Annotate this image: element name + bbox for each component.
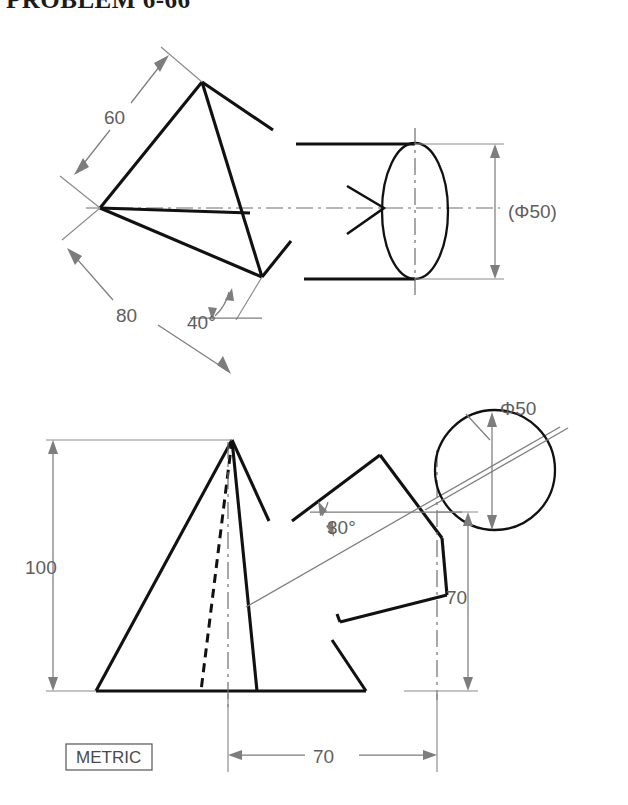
dimension-dia50-arrowhead-top [487, 412, 497, 427]
front-view-block-notch-edge [337, 614, 340, 622]
front-view: Φ50 100 30° [25, 398, 568, 772]
dimension-80-extension-upper [62, 208, 100, 240]
front-view-hidden-edge [201, 440, 232, 691]
front-view-left-slant-edge [96, 440, 232, 691]
dimension-70h-label: 70 [313, 746, 334, 767]
drawing-page: PROBLEM 6-66 [0, 0, 628, 805]
dimension-70h-arrowhead-right [423, 750, 437, 760]
dimension-100-arrowhead-top [48, 440, 58, 454]
dimension-100-arrowhead-bottom [48, 677, 58, 691]
front-view-block-bottom-edge [340, 595, 447, 622]
dimension-40-arrowhead-upper [225, 288, 234, 301]
dimension-60-label: 60 [104, 107, 125, 128]
dimension-60-arrowhead-upper [154, 55, 169, 72]
dimension-dia50ref-arrowhead-bottom [490, 265, 500, 279]
technical-drawing-canvas: 60 80 40° [0, 0, 628, 805]
top-view-edge-upper-right-flap [202, 82, 273, 130]
metric-note: METRIC [66, 744, 152, 770]
dimension-diameter-50: Φ50 [466, 398, 536, 530]
front-view-inclined-axis [246, 427, 560, 607]
dimension-80-label: 80 [116, 305, 137, 326]
front-view-right-slant-edge [232, 440, 257, 691]
dimension-dia50ref-label: (Φ50) [508, 201, 557, 222]
dimension-70h-arrowhead-left [228, 750, 242, 760]
dimension-30-label: 30° [327, 517, 356, 538]
top-view-edge-upper-left [100, 82, 202, 208]
view-direction-arrow-icon [347, 186, 384, 234]
dimension-80-arrowhead-lower [217, 356, 231, 374]
front-view-circle-axis-line [425, 428, 568, 510]
top-view-edge-lower-right-diagonal [100, 208, 262, 277]
dimension-dia50-label: Φ50 [500, 398, 536, 419]
dimension-70v-arrowhead-top [463, 512, 473, 526]
dimension-100-label: 100 [25, 557, 57, 578]
dimension-40-label: 40° [187, 312, 216, 333]
dimension-60-extension-lower [60, 176, 100, 208]
dimension-dia50-arrowhead-bottom [487, 515, 497, 530]
dimension-100: 100 [25, 440, 232, 691]
dimension-80-extension-lower [236, 277, 262, 320]
front-view-block-lower-left-edge [332, 640, 366, 691]
top-view-edge-lower-right-flap [262, 241, 291, 277]
dimension-dia50-leader [466, 414, 490, 440]
metric-note-label: METRIC [76, 748, 141, 767]
dimension-70-horizontal: 70 [228, 694, 437, 772]
dimension-60-extension-upper [161, 47, 202, 82]
top-view-edge-right-long [202, 82, 262, 277]
dimension-70v-label: 70 [446, 587, 467, 608]
dimension-dia50ref-arrowhead-top [490, 144, 500, 158]
dimension-diameter-50-reference: (Φ50) [415, 144, 557, 279]
top-view: 60 80 40° [60, 47, 557, 374]
dimension-60: 60 [60, 47, 202, 208]
dimension-40-arc [215, 292, 229, 316]
front-view-block-top-left-edge [292, 455, 380, 521]
top-view-edge-horizontal-interior [100, 208, 250, 213]
dimension-70v-arrowhead-bottom [463, 677, 473, 691]
